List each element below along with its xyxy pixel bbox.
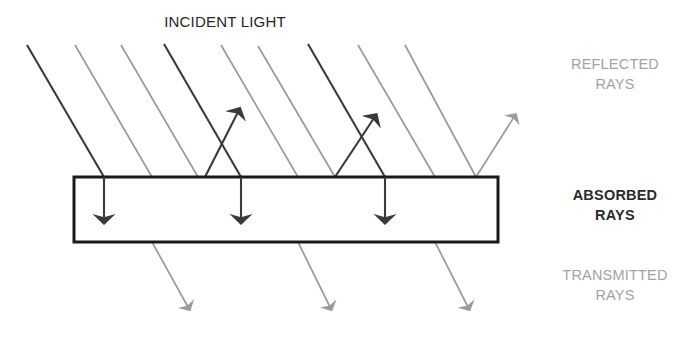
incident-light-label: INCIDENT LIGHT [60,12,390,32]
absorbed-rays-label: ABSORBED RAYS [540,186,690,225]
light-interaction-diagram: INCIDENT LIGHT REFLECTED RAYS ABSORBED R… [0,0,697,337]
incident-ray-8 [358,45,435,177]
incident-ray-9 [405,45,476,177]
incident-ray-3 [121,45,198,177]
incident-ray-5 [221,45,298,177]
incident-rays-group [27,44,476,177]
incident-ray-4 [164,44,241,177]
incident-ray-2 [75,45,152,177]
transmitted-rays-label: TRANSMITTED RAYS [540,266,690,305]
incident-ray-6 [258,46,335,177]
incident-ray-1 [27,45,104,177]
reflected-rays-label: REFLECTED RAYS [540,55,690,94]
reflected-rays-group [205,112,514,177]
material-slab [74,177,498,242]
reflected-ray-3 [476,117,514,177]
incident-ray-7 [308,44,385,177]
